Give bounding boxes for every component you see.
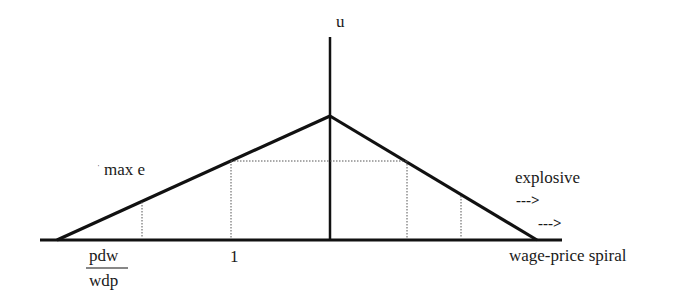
fraction-numerator: pdw (89, 246, 119, 265)
vertical-axis-label-u: u (336, 12, 345, 31)
right-falling-line (330, 116, 537, 240)
fraction-denominator: wdp (89, 271, 118, 290)
explosive-arrow-2: ---> (538, 215, 562, 231)
tick-label-one: 1 (230, 247, 239, 266)
dotted-guides (142, 161, 461, 238)
explosive-label: explosive (515, 168, 580, 187)
left-rising-line (57, 116, 330, 240)
wage-price-diagram: u ˈ max e explosive ---> ---> wage-price… (0, 0, 688, 308)
horizontal-axis-label: wage-price spiral (509, 246, 627, 265)
explosive-arrow-1: ---> (516, 192, 540, 208)
max-e-tick-mark: ˈ (97, 163, 100, 173)
max-e-label: max e (104, 160, 145, 179)
